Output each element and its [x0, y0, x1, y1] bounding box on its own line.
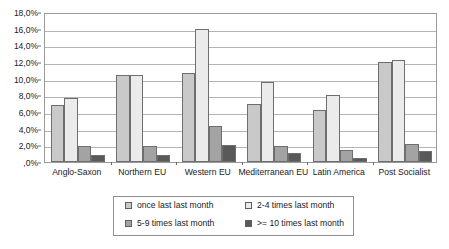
x-tick-mark [242, 162, 243, 165]
bar [274, 146, 288, 162]
bar [247, 104, 261, 162]
y-tick-mark [38, 79, 41, 80]
legend-swatch-icon [245, 202, 252, 209]
y-tick-label: 12,0% [14, 59, 38, 68]
chart-legend: once last last month 2-4 times last mont… [113, 196, 354, 236]
bar [326, 95, 340, 162]
bar-group [176, 14, 242, 162]
bar [195, 29, 209, 162]
legend-swatch-icon [125, 202, 132, 209]
x-tick-mark [373, 162, 374, 165]
legend-item-10-plus-times-last-month: >= 10 times last month [245, 218, 344, 228]
x-axis: Anglo-SaxonNorthern EUWestern EUMediterr… [44, 167, 437, 193]
bar [91, 155, 105, 162]
bar [64, 98, 78, 162]
legend-row: 5-9 times last month >= 10 times last mo… [114, 218, 353, 236]
x-tick-mark [111, 162, 112, 165]
y-tick-label: 18,0% [14, 9, 38, 18]
bar [378, 62, 392, 162]
y-tick-label: 16,0% [14, 25, 38, 34]
y-tick-mark [38, 163, 41, 164]
legend-item-2-4-times-last-month: 2-4 times last month [245, 200, 334, 210]
bar [116, 75, 130, 163]
bar [392, 60, 406, 163]
bar-group [45, 14, 111, 162]
bar [340, 150, 354, 163]
y-tick-label: 4,0% [19, 125, 38, 134]
bar [78, 146, 92, 162]
legend-swatch-icon [125, 220, 132, 227]
y-tick-mark [38, 96, 41, 97]
bar [405, 144, 419, 162]
bars-layer [45, 14, 436, 162]
legend-label: 2-4 times last month [257, 200, 334, 210]
bar [288, 153, 302, 162]
y-tick-mark [38, 146, 41, 147]
y-tick-mark [38, 113, 41, 114]
bar [261, 82, 275, 162]
bar [182, 73, 196, 162]
bar [157, 155, 171, 163]
y-tick-label: 6,0% [19, 109, 38, 118]
bar-group [307, 14, 373, 162]
bar [313, 110, 327, 163]
bar [419, 151, 433, 162]
y-tick-label: 8,0% [19, 92, 38, 101]
legend-label: once last last month [137, 200, 213, 210]
legend-label: 5-9 times last month [137, 218, 214, 228]
bar-chart: 18,0%16,0%14,0%12,0%10,0%8,0%6,0%4,0%2,0… [0, 0, 449, 249]
x-tick-mark [307, 162, 308, 165]
bar [143, 146, 157, 162]
y-tick-mark [38, 29, 41, 30]
y-tick-label: 14,0% [14, 42, 38, 51]
y-tick-label: 10,0% [14, 75, 38, 84]
bar [51, 105, 65, 163]
legend-label: >= 10 times last month [257, 218, 344, 228]
plot-area [44, 13, 437, 163]
y-tick-label: ,0% [23, 159, 38, 168]
bar [130, 75, 144, 163]
bar [222, 145, 236, 163]
x-tick-mark [176, 162, 177, 165]
y-tick-label: 2,0% [19, 142, 38, 151]
x-category-label: Post Socialist [366, 167, 444, 178]
legend-swatch-icon [245, 220, 252, 227]
y-axis: 18,0%16,0%14,0%12,0%10,0%8,0%6,0%4,0%2,0… [0, 13, 41, 163]
bar-group [373, 14, 439, 162]
bar-group [242, 14, 308, 162]
bar [209, 126, 223, 162]
y-tick-mark [38, 46, 41, 47]
y-tick-mark [38, 13, 41, 14]
y-tick-mark [38, 63, 41, 64]
bar [353, 158, 367, 162]
y-tick-mark [38, 129, 41, 130]
legend-item-5-9-times-last-month: 5-9 times last month [125, 218, 214, 228]
bar-group [111, 14, 177, 162]
legend-item-once-last-month: once last last month [125, 200, 213, 210]
legend-row: once last last month 2-4 times last mont… [114, 200, 353, 218]
